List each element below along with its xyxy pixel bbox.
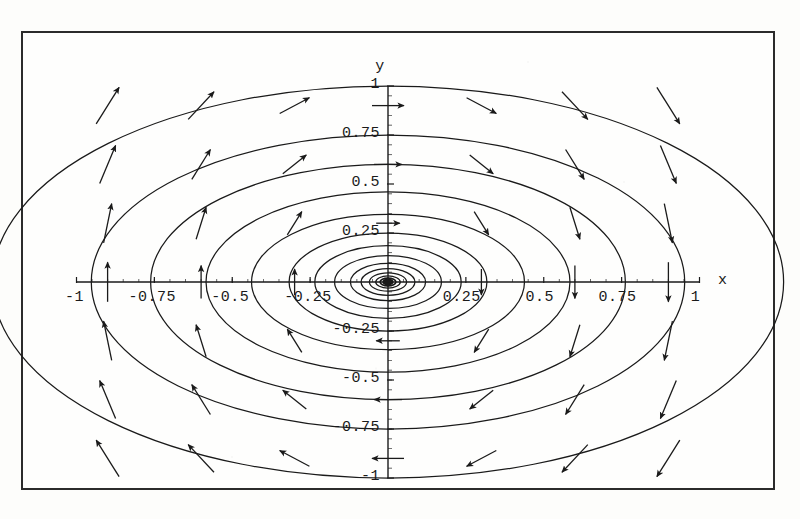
field-arrow: [96, 87, 119, 124]
field-arrow: [96, 440, 119, 477]
field-arrow: [470, 155, 494, 174]
field-arrow: [104, 204, 112, 243]
field-arrow: [287, 329, 302, 352]
y-tick-label: -0.25: [332, 321, 380, 338]
field-arrow: [566, 150, 585, 180]
y-tick-label: 0.25: [342, 223, 380, 240]
field-arrow: [657, 440, 680, 477]
x-axis-name: x: [718, 272, 728, 289]
field-arrow: [467, 98, 497, 114]
x-tick-label: -0.75: [129, 289, 177, 306]
field-arrow: [470, 390, 494, 409]
field-arrow: [657, 87, 680, 124]
field-arrow: [104, 321, 112, 360]
y-tick-label: -0.75: [332, 419, 380, 436]
y-tick-label: -1: [361, 468, 380, 485]
field-arrow: [467, 451, 497, 467]
phase-portrait-figure: -1-0.75-0.5-0.250.250.50.75110.750.50.25…: [0, 0, 800, 519]
field-arrow: [566, 385, 585, 415]
field-arrow: [192, 150, 211, 180]
center-fixed-point: [384, 278, 392, 286]
field-arrow: [664, 321, 672, 360]
field-arrow: [283, 390, 307, 409]
field-arrow: [280, 451, 310, 467]
field-arrow: [100, 381, 116, 419]
field-arrow: [192, 385, 211, 415]
y-tick-label: 0.75: [342, 125, 380, 142]
field-arrow: [474, 212, 489, 235]
field-arrow: [562, 92, 588, 120]
x-tick-label: 1: [691, 289, 701, 306]
field-arrow: [188, 445, 214, 473]
y-axis-name: y: [375, 58, 385, 75]
field-arrow: [664, 204, 672, 243]
field-arrow: [660, 145, 676, 183]
x-tick-label: 0.5: [525, 289, 554, 306]
x-tick-label: 0.75: [599, 289, 637, 306]
x-tick-label: -0.5: [211, 289, 249, 306]
x-tick-label: -1: [65, 289, 84, 306]
field-arrow: [474, 329, 489, 352]
field-arrow: [660, 381, 676, 419]
plot-canvas: [0, 0, 800, 519]
field-arrow: [287, 212, 302, 235]
field-arrow: [562, 445, 588, 473]
field-arrow: [100, 145, 116, 183]
y-tick-label: -0.5: [342, 370, 380, 387]
field-arrow: [188, 92, 214, 120]
x-tick-label: 0.25: [443, 289, 481, 306]
y-tick-label: 0.5: [351, 174, 380, 191]
field-arrow: [283, 155, 307, 174]
x-tick-label: -0.25: [284, 289, 332, 306]
y-tick-label: 1: [370, 76, 380, 93]
field-arrow: [280, 98, 310, 114]
